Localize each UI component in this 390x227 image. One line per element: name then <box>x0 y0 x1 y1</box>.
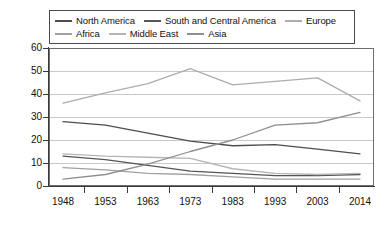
y-axis-tick-label: 30 <box>2 112 42 122</box>
gridline <box>50 163 373 164</box>
legend-item-middle-east[interactable]: Middle East <box>109 28 179 39</box>
gridline <box>50 71 373 72</box>
y-axis-tick <box>43 186 49 187</box>
y-axis-tick <box>43 163 49 164</box>
legend-line-swatch-icon <box>109 33 126 35</box>
x-axis-tick-label: 1953 <box>83 196 127 207</box>
x-axis-tick <box>84 187 85 193</box>
plot-area <box>49 48 374 186</box>
x-axis-tick <box>169 187 170 193</box>
x-axis-tick <box>212 187 213 193</box>
y-axis-tick-label: 60 <box>2 43 42 53</box>
y-axis-tick-label: 0 <box>2 181 42 191</box>
legend-item-label: North America <box>76 15 135 26</box>
y-axis-tick <box>43 140 49 141</box>
legend-line-swatch-icon <box>55 20 72 22</box>
y-axis-tick <box>43 48 49 49</box>
x-axis-tick <box>296 187 297 193</box>
legend-item-label: Asia <box>208 28 226 39</box>
legend-item-asia[interactable]: Asia <box>187 28 226 39</box>
y-axis-tick <box>43 94 49 95</box>
legend-item-europe[interactable]: Europe <box>285 15 336 26</box>
x-axis-tick <box>254 187 255 193</box>
line-chart: North AmericaSouth and Central AmericaEu… <box>0 0 390 227</box>
chart-legend: North AmericaSouth and Central AmericaEu… <box>49 10 355 44</box>
legend-line-swatch-icon <box>187 33 204 35</box>
y-axis-tick-label: 20 <box>2 135 42 145</box>
x-axis-tick <box>127 187 128 193</box>
legend-item-south-and-central-america[interactable]: South and Central America <box>144 15 276 26</box>
x-axis-tick-label: 1983 <box>211 196 255 207</box>
x-axis-tick <box>339 187 340 193</box>
y-axis-tick-label: 10 <box>2 158 42 168</box>
x-axis-tick-label: 1963 <box>126 196 170 207</box>
gridline <box>50 94 373 95</box>
x-axis-tick-label: 1993 <box>253 196 297 207</box>
legend-item-north-america[interactable]: North America <box>55 15 135 26</box>
legend-line-swatch-icon <box>144 20 161 22</box>
y-axis-tick <box>43 71 49 72</box>
legend-row: AfricaMiddle EastAsia <box>55 27 350 40</box>
x-axis-tick-label: 1973 <box>168 196 212 207</box>
legend-item-label: Africa <box>76 28 100 39</box>
legend-item-label: Middle East <box>130 28 179 39</box>
y-axis-tick-label: 40 <box>2 89 42 99</box>
x-axis-tick-label: 2014 <box>338 196 382 207</box>
legend-row: North AmericaSouth and Central AmericaEu… <box>55 14 350 27</box>
gridline <box>50 117 373 118</box>
legend-item-africa[interactable]: Africa <box>55 28 100 39</box>
legend-line-swatch-icon <box>285 20 302 22</box>
legend-item-label: South and Central America <box>165 15 276 26</box>
y-axis-tick-label: 50 <box>2 66 42 76</box>
legend-item-label: Europe <box>306 15 336 26</box>
y-axis-tick <box>43 117 49 118</box>
x-axis-tick-label: 2003 <box>296 196 340 207</box>
x-axis-tick-label: 1948 <box>41 196 85 207</box>
legend-line-swatch-icon <box>55 33 72 35</box>
gridline <box>50 140 373 141</box>
